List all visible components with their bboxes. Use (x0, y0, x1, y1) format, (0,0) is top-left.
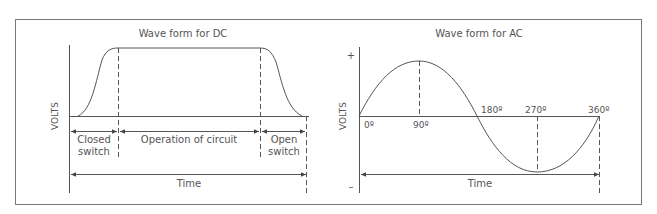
ac-angle-270: 270º (525, 105, 546, 115)
dc-open-label-1: Open (271, 134, 298, 145)
dc-panel: Wave form for DC VOLTS Closed switch Ope… (50, 28, 309, 193)
dc-closed-label-1: Closed (77, 134, 111, 145)
dc-open-label-2: switch (268, 146, 300, 157)
dc-waveform (78, 48, 302, 116)
ac-angle-180: 180º (481, 105, 502, 115)
ac-time-label: Time (467, 178, 492, 189)
dc-y-axis-label: VOLTS (50, 102, 60, 130)
outer-frame (16, 20, 642, 205)
ac-minus-sign: – (349, 181, 354, 192)
dc-operation-label: Operation of circuit (141, 134, 238, 145)
ac-title: Wave form for AC (435, 28, 523, 39)
ac-angle-0: 0º (364, 120, 374, 130)
dc-time-label: Time (176, 178, 201, 189)
ac-y-axis-label: VOLTS (338, 102, 348, 130)
waveform-diagram: Wave form for DC VOLTS Closed switch Ope… (0, 0, 657, 214)
ac-plus-sign: + (347, 50, 355, 61)
dc-closed-label-2: switch (78, 146, 110, 157)
ac-angle-360: 360º (588, 105, 609, 115)
ac-panel: Wave form for AC + – VOLTS 0º 90º 180º 2… (338, 28, 609, 193)
ac-angle-90: 90º (413, 120, 429, 130)
dc-title: Wave form for DC (139, 28, 228, 39)
